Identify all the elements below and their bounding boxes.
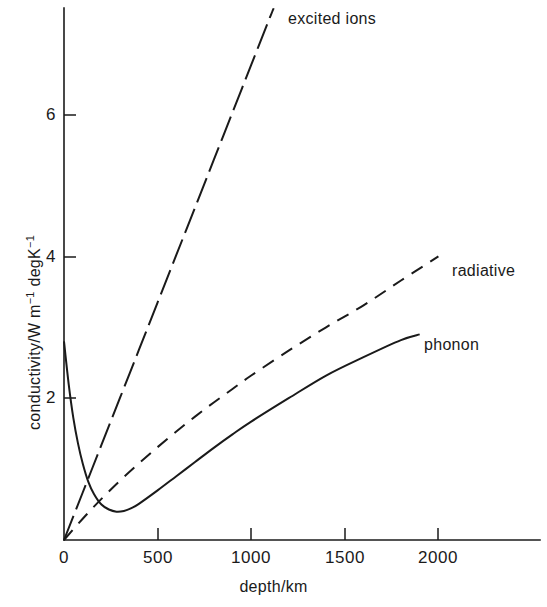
- x-tick-label-500: 500: [143, 548, 173, 568]
- y-tick-label-6: 6: [38, 105, 56, 125]
- series-label-excited-ions: excited ions: [288, 10, 376, 28]
- y-axis-title: conductivity/W m−1 degK−1: [26, 235, 44, 430]
- x-tick-label-1000: 1000: [231, 548, 271, 568]
- y-axis-title-text: conductivity/W m: [26, 304, 43, 430]
- y-axis-title-exp-1: −1: [24, 291, 36, 304]
- y-axis-title-exp-2: −1: [24, 235, 36, 248]
- plot-canvas: [0, 0, 547, 607]
- series-label-radiative: radiative: [452, 262, 515, 280]
- x-tick-label-1500: 1500: [325, 548, 365, 568]
- x-tick-label-0: 0: [59, 548, 69, 568]
- x-axis-title: depth/km: [0, 578, 547, 596]
- y-axis-title-text-2: degK: [26, 248, 43, 291]
- x-tick-label-2000: 2000: [418, 548, 458, 568]
- conductivity-vs-depth-figure: 0 500 1000 1500 2000 2 4 6 depth/km cond…: [0, 0, 547, 607]
- series-line-excited-ions: [64, 8, 274, 540]
- series-label-phonon: phonon: [424, 336, 479, 354]
- series-line-phonon: [64, 334, 420, 511]
